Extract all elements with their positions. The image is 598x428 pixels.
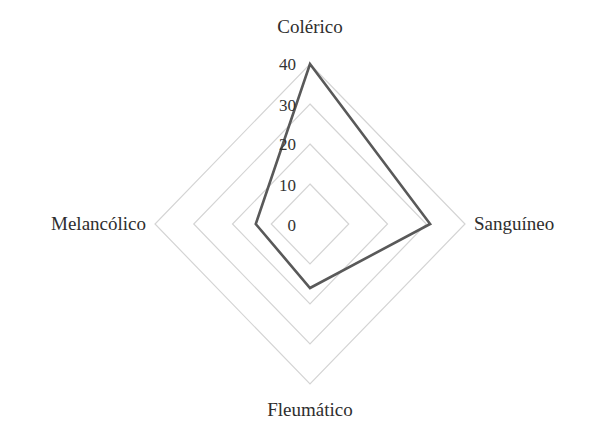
category-label-fleumatico: Fleumático: [267, 399, 352, 420]
category-label-melancolico: Melancólico: [51, 213, 146, 234]
tick-label-40: 40: [279, 55, 296, 74]
tick-label-0: 0: [288, 216, 297, 235]
tick-label-20: 20: [279, 135, 296, 154]
category-label-sanguineo: Sanguíneo: [474, 213, 554, 234]
radar-chart: 40 30 20 10 0 Colérico Sanguíneo Fleumát…: [0, 0, 598, 428]
tick-label-30: 30: [279, 96, 296, 115]
category-label-colerico: Colérico: [277, 16, 342, 37]
tick-label-10: 10: [279, 176, 296, 195]
